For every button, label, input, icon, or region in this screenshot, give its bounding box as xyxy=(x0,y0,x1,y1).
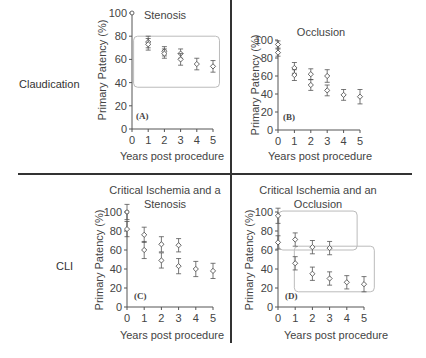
y-tick-label: 40 xyxy=(261,88,273,100)
panel-a: Stenosis020406080100012345Years post pro… xyxy=(96,7,224,162)
x-tick-label: 5 xyxy=(210,312,216,324)
data-point-marker xyxy=(344,280,349,285)
data-point-marker xyxy=(159,258,164,263)
data-point-marker xyxy=(130,11,134,15)
data-point-marker xyxy=(325,88,330,93)
x-axis-label: Years post procedure xyxy=(268,150,372,162)
data-point-marker xyxy=(327,276,332,281)
y-axis-label: Primary Patency (%) xyxy=(96,20,108,121)
data-point-marker xyxy=(176,243,181,248)
y-axis-label: Primary Patency (%) xyxy=(93,210,105,311)
panel-tag: (A) xyxy=(136,111,149,121)
x-tick-label: 2 xyxy=(161,134,167,146)
y-tick-label: 100 xyxy=(109,7,127,19)
y-tick-label: 20 xyxy=(261,106,273,118)
panel-title: Stenosis xyxy=(144,198,187,210)
data-point-marker xyxy=(310,271,315,276)
y-axis-label: Primary Patency (%) xyxy=(249,35,261,136)
x-tick-label: 4 xyxy=(344,312,350,324)
x-tick-label: 1 xyxy=(292,312,298,324)
data-point-marker xyxy=(308,82,313,87)
figure: Claudication CLI Stenosis020406080100012… xyxy=(0,0,426,358)
data-point-marker xyxy=(361,282,366,287)
panel-title: Occlusion xyxy=(297,26,345,38)
y-tick-label: 60 xyxy=(261,244,273,256)
y-tick-label: 80 xyxy=(110,225,122,237)
highlight-box xyxy=(279,211,357,250)
data-point-marker xyxy=(178,57,183,62)
y-tick-label: 40 xyxy=(115,77,127,89)
y-tick-label: 0 xyxy=(267,301,273,313)
x-axis-label: Years post procedure xyxy=(284,329,388,341)
y-tick-label: 20 xyxy=(110,282,122,294)
panel-title: Critical Ischemia and an xyxy=(259,184,376,196)
y-tick-label: 100 xyxy=(255,206,273,218)
x-tick-label: 5 xyxy=(357,135,363,147)
data-point-marker xyxy=(357,94,362,99)
panel-tag: (C) xyxy=(134,291,147,301)
x-axis-label: Years post procedure xyxy=(120,150,224,162)
y-tick-label: 0 xyxy=(116,301,122,313)
data-point-marker xyxy=(193,266,198,271)
y-tick-label: 80 xyxy=(115,30,127,42)
data-point-marker xyxy=(275,240,280,245)
data-point-marker xyxy=(275,213,280,218)
x-axis-label: Years post procedure xyxy=(120,329,224,341)
data-point-marker xyxy=(210,64,215,69)
panel-title: Occlusion xyxy=(294,198,342,210)
chart-panels: Stenosis020406080100012345Years post pro… xyxy=(0,0,426,358)
y-tick-label: 20 xyxy=(261,282,273,294)
y-tick-label: 60 xyxy=(261,70,273,82)
data-point-marker xyxy=(293,261,298,266)
x-tick-label: 1 xyxy=(141,312,147,324)
panel-title: Critical Ischemia and a xyxy=(109,184,221,196)
data-point-marker xyxy=(159,242,164,247)
x-tick-label: 5 xyxy=(210,134,216,146)
x-tick-label: 4 xyxy=(193,312,199,324)
data-point-marker xyxy=(176,264,181,269)
y-tick-label: 80 xyxy=(261,52,273,64)
data-point-marker xyxy=(310,245,315,250)
x-tick-label: 0 xyxy=(275,312,281,324)
y-tick-label: 20 xyxy=(115,100,127,112)
panel-tag: (D) xyxy=(285,291,298,301)
data-point-marker xyxy=(275,42,280,47)
x-tick-label: 3 xyxy=(178,134,184,146)
x-tick-label: 1 xyxy=(291,135,297,147)
y-tick-label: 100 xyxy=(104,206,122,218)
panel-tag: (B) xyxy=(283,112,295,122)
data-point-marker xyxy=(341,92,346,97)
panel-b: Occlusion020406080100012345Years post pr… xyxy=(249,26,372,162)
y-tick-label: 0 xyxy=(121,123,127,135)
data-point-marker xyxy=(308,72,313,77)
x-tick-label: 2 xyxy=(158,312,164,324)
x-tick-label: 3 xyxy=(327,312,333,324)
x-tick-label: 4 xyxy=(194,134,200,146)
x-tick-label: 2 xyxy=(308,135,314,147)
data-point-marker xyxy=(293,237,298,242)
x-tick-label: 4 xyxy=(341,135,347,147)
x-tick-label: 3 xyxy=(176,312,182,324)
data-point-marker xyxy=(325,73,330,78)
x-tick-label: 2 xyxy=(309,312,315,324)
x-tick-label: 0 xyxy=(275,135,281,147)
y-tick-label: 40 xyxy=(110,263,122,275)
y-axis-label: Primary Patency (%) xyxy=(243,210,255,311)
x-tick-label: 3 xyxy=(324,135,330,147)
data-point-marker xyxy=(275,50,280,55)
y-tick-label: 60 xyxy=(110,244,122,256)
data-point-marker xyxy=(210,268,215,273)
x-tick-label: 1 xyxy=(145,134,151,146)
data-point-marker xyxy=(142,232,147,237)
data-point-marker xyxy=(125,210,129,214)
x-tick-label: 0 xyxy=(129,134,135,146)
data-point-marker xyxy=(194,61,199,66)
panel-d: Critical Ischemia and anOcclusion0204060… xyxy=(243,184,388,341)
data-point-marker xyxy=(142,247,147,252)
y-tick-label: 0 xyxy=(267,124,273,136)
x-tick-label: 5 xyxy=(361,312,367,324)
panel-title: Stenosis xyxy=(144,9,187,21)
y-tick-label: 40 xyxy=(261,263,273,275)
x-tick-label: 0 xyxy=(124,312,130,324)
panel-c: Critical Ischemia and aStenosis020406080… xyxy=(93,184,224,341)
